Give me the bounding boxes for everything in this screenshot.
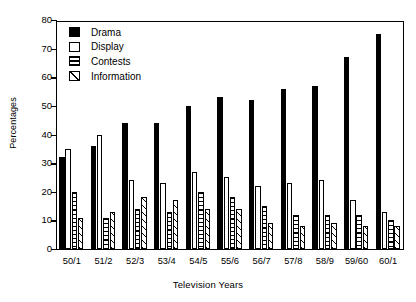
bar-group: [312, 21, 336, 249]
bar-contests-53-4: [167, 212, 172, 249]
bar-contests-50-1: [72, 192, 77, 249]
legend-item-drama: Drama: [69, 25, 141, 40]
legend-item-label: Contests: [91, 56, 130, 67]
y-axis-tick-label: 40: [22, 129, 52, 140]
bar-group: [186, 21, 210, 249]
bar-information-58-9: [331, 223, 336, 249]
bar-group: [281, 21, 305, 249]
bar-drama-54-5: [186, 106, 191, 249]
bar-drama-59-60: [344, 57, 349, 249]
bar-contests-55-6: [230, 197, 235, 249]
bar-display-50-1: [65, 149, 70, 249]
bar-drama-58-9: [312, 86, 317, 249]
bar-information-54-5: [205, 209, 210, 249]
bar-chart: Percentages 01020304050607080 50/151/252…: [0, 0, 416, 302]
y-axis-tick-label: 50: [22, 100, 52, 111]
bar-drama-56-7: [249, 100, 254, 249]
bar-contests-52-3: [135, 209, 140, 249]
y-axis-tick-label: 10: [22, 214, 52, 225]
legend-item-contests: Contests: [69, 54, 141, 69]
bar-information-59-60: [363, 226, 368, 249]
bar-display-51-2: [97, 135, 102, 250]
y-axis-tick-label: 0: [22, 243, 52, 254]
bar-contests-56-7: [262, 206, 267, 249]
bar-display-54-5: [192, 172, 197, 249]
bar-display-55-6: [224, 177, 229, 249]
bar-display-52-3: [129, 180, 134, 249]
diagonal-hatch-swatch: [69, 71, 80, 81]
legend-item-label: Drama: [91, 27, 121, 38]
bar-display-56-7: [255, 186, 260, 249]
bar-display-59-60: [350, 200, 355, 249]
bar-group: [249, 21, 273, 249]
legend-item-label: Information: [91, 71, 141, 82]
bar-information-55-6: [236, 209, 241, 249]
bar-group: [217, 21, 241, 249]
bar-information-51-2: [110, 212, 115, 249]
y-axis-title: Percentages: [8, 78, 18, 168]
bar-group: [154, 21, 178, 249]
bar-drama-50-1: [59, 157, 64, 249]
bar-information-53-4: [173, 200, 178, 249]
bar-information-52-3: [141, 197, 146, 249]
horizontal-lines-swatch: [69, 56, 80, 66]
white-swatch: [69, 42, 80, 52]
bar-drama-57-8: [281, 89, 286, 249]
x-axis-title: Television Years: [0, 279, 416, 290]
solid-black-swatch: [69, 27, 80, 37]
y-axis-tick-label: 20: [22, 186, 52, 197]
bar-contests-60-1: [388, 220, 393, 249]
bar-information-50-1: [78, 218, 83, 249]
bar-information-56-7: [268, 223, 273, 249]
bar-drama-52-3: [122, 123, 127, 249]
y-axis-tick-label: 80: [22, 14, 52, 25]
bar-contests-58-9: [325, 215, 330, 249]
bar-drama-51-2: [91, 146, 96, 249]
bar-information-60-1: [394, 226, 399, 249]
bar-contests-59-60: [356, 215, 361, 249]
bar-display-53-4: [160, 183, 165, 249]
bar-drama-60-1: [376, 34, 381, 249]
bar-information-57-8: [300, 226, 305, 249]
y-axis-tick-label: 30: [22, 157, 52, 168]
bar-display-60-1: [382, 212, 387, 249]
chart-legend: DramaDisplayContestsInformation: [69, 25, 141, 83]
bar-group: [376, 21, 400, 249]
y-axis-tick-label: 70: [22, 43, 52, 54]
bar-group: [344, 21, 368, 249]
bar-contests-51-2: [103, 218, 108, 249]
y-axis-tick-label: 60: [22, 71, 52, 82]
legend-item-display: Display: [69, 40, 141, 55]
legend-item-information: Information: [69, 69, 141, 84]
bar-contests-57-8: [293, 215, 298, 249]
bar-display-57-8: [287, 183, 292, 249]
bar-drama-55-6: [217, 97, 222, 249]
x-axis-tick-label: 60/1: [368, 256, 408, 266]
bar-contests-54-5: [198, 192, 203, 249]
bar-drama-53-4: [154, 123, 159, 249]
legend-item-label: Display: [91, 41, 124, 52]
bar-display-58-9: [319, 180, 324, 249]
